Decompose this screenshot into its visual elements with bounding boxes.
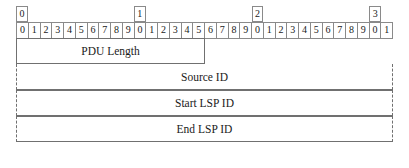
bit-cell-18: 8: [229, 23, 241, 39]
field-row-source-id: Source ID: [16, 64, 393, 90]
bit-cell-25: 5: [311, 23, 323, 39]
bit-cell-7: 7: [99, 23, 111, 39]
bit-cell-26: 6: [323, 23, 335, 39]
bit-cell-29: 9: [358, 23, 370, 39]
bit-cell-17: 7: [217, 23, 229, 39]
field-source-id: Source ID: [16, 64, 393, 90]
bit-cell-8: 8: [111, 23, 123, 39]
bit-cell-22: 2: [276, 23, 288, 39]
bit-cell-1: 1: [29, 23, 41, 39]
bit-cell-13: 3: [170, 23, 182, 39]
field-row-end-lsp-id: End LSP ID: [16, 116, 393, 142]
field-end-lsp-id: End LSP ID: [16, 116, 393, 142]
decade-label-3: 3: [369, 6, 381, 22]
bit-cell-11: 1: [146, 23, 158, 39]
decade-label-row: 0123: [16, 6, 393, 22]
bit-cell-14: 4: [182, 23, 194, 39]
bit-cell-21: 1: [264, 23, 276, 39]
decade-label-2: 2: [252, 6, 264, 22]
field-row-start-lsp-id: Start LSP ID: [16, 90, 393, 116]
bit-cell-30: 0: [370, 23, 382, 39]
field-pdu-length: PDU Length: [16, 38, 205, 64]
decade-label-1: 1: [134, 6, 146, 22]
bit-cell-9: 9: [123, 23, 135, 39]
bit-cell-5: 5: [76, 23, 88, 39]
field-row-pdu-length: PDU Length: [16, 38, 393, 64]
bit-cell-3: 3: [52, 23, 64, 39]
bit-cell-19: 9: [240, 23, 252, 39]
packet-format-diagram: 0123 01234567890123456789012345678901 PD…: [16, 6, 393, 142]
bit-cell-0: 0: [17, 23, 29, 39]
bit-number-row: 01234567890123456789012345678901: [16, 22, 393, 38]
decade-label-0: 0: [16, 6, 28, 22]
field-start-lsp-id: Start LSP ID: [16, 90, 393, 116]
bit-cell-10: 0: [135, 23, 147, 39]
bit-cell-23: 3: [287, 23, 299, 39]
bit-cell-15: 5: [193, 23, 205, 39]
bit-cell-31: 1: [381, 23, 393, 39]
bit-cell-4: 4: [64, 23, 76, 39]
bit-cell-20: 0: [252, 23, 264, 39]
bit-cell-2: 2: [41, 23, 53, 39]
bit-cell-6: 6: [88, 23, 100, 39]
bit-cell-12: 2: [158, 23, 170, 39]
bit-cell-28: 8: [346, 23, 358, 39]
bit-cell-27: 7: [334, 23, 346, 39]
bit-cell-16: 6: [205, 23, 217, 39]
bit-cell-24: 4: [299, 23, 311, 39]
